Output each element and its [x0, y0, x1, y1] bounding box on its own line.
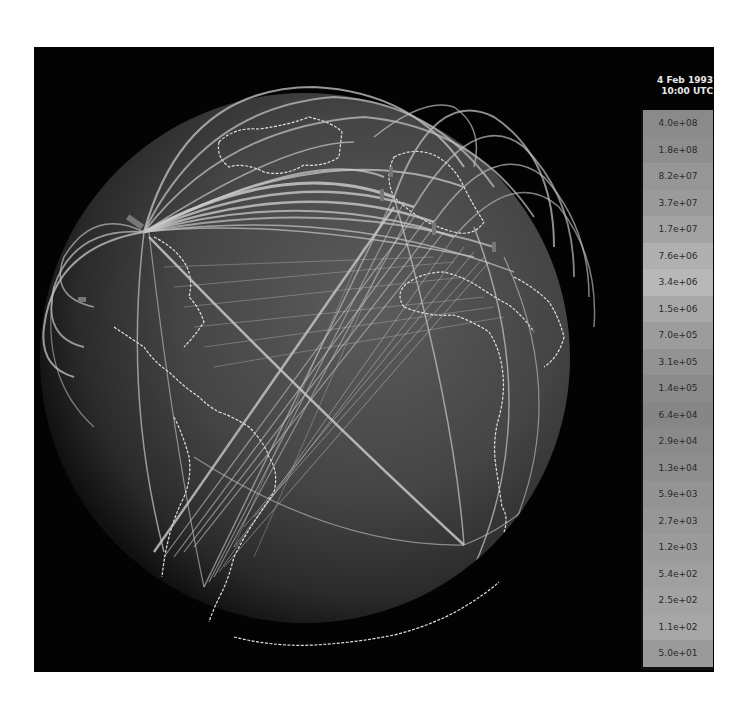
timestamp: 4 Feb 1993 10:00 UTC: [641, 75, 713, 97]
legend-band: 7.6e+06: [643, 243, 713, 270]
legend-band: 3.4e+06: [643, 269, 713, 296]
legend-band: 2.9e+04: [643, 428, 713, 455]
legend-band: 1.8e+08: [643, 137, 713, 164]
legend-band: 2.5e+02: [643, 587, 713, 614]
legend-band: 1.3e+04: [643, 455, 713, 482]
legend-band: 2.7e+03: [643, 508, 713, 535]
legend-band: 5.9e+03: [643, 481, 713, 508]
legend-band: 1.7e+07: [643, 216, 713, 243]
legend-band: 5.4e+02: [643, 561, 713, 588]
legend-band: 8.2e+07: [643, 163, 713, 190]
legend-band: 1.4e+05: [643, 375, 713, 402]
legend-band: 4.0e+08: [643, 110, 713, 137]
legend-band: 5.0e+01: [643, 640, 713, 667]
globe-map[interactable]: [34, 47, 714, 672]
timestamp-date: 4 Feb 1993: [641, 75, 713, 86]
visualization-frame: 4 Feb 1993 10:00 UTC 4.0e+08 1.8e+08 8.2…: [34, 47, 714, 672]
legend-band: 1.2e+03: [643, 534, 713, 561]
legend-band: 1.5e+06: [643, 296, 713, 323]
legend-band: 7.0e+05: [643, 322, 713, 349]
traffic-legend: 4.0e+08 1.8e+08 8.2e+07 3.7e+07 1.7e+07 …: [641, 110, 713, 670]
legend-band: 1.1e+02: [643, 614, 713, 641]
legend-band: 6.4e+04: [643, 402, 713, 429]
legend-band: 3.1e+05: [643, 349, 713, 376]
legend-band: 3.7e+07: [643, 190, 713, 217]
timestamp-time: 10:00 UTC: [641, 86, 713, 97]
